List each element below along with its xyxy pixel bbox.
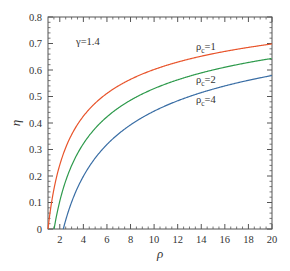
series-line-c4 — [63, 76, 272, 229]
x-tick-label: 14 — [196, 234, 207, 245]
x-tick-label: 2 — [57, 234, 62, 245]
y-tick-label: 0.8 — [29, 12, 42, 23]
series-label: ρc=4 — [196, 94, 217, 108]
x-tick-label: 18 — [243, 234, 254, 245]
series-label: ρc=1 — [196, 41, 216, 55]
y-tick-label: 0.4 — [29, 118, 43, 129]
x-tick-label: 10 — [149, 234, 160, 245]
x-tick-label: 6 — [104, 234, 109, 245]
y-tick-label: 0.6 — [29, 65, 42, 76]
gamma-annotation: γ=1.4 — [75, 36, 100, 47]
series-label: ρc=2 — [196, 74, 216, 88]
x-tick-label: 8 — [128, 234, 133, 245]
line-chart: 00.10.20.30.40.50.60.70.8 24681012141618… — [0, 0, 290, 271]
y-tick-label: 0.5 — [29, 91, 42, 102]
y-tick-label: 0.1 — [29, 197, 42, 208]
data-series — [48, 44, 272, 229]
x-tick-label: 20 — [267, 234, 278, 245]
y-tick-label: 0 — [37, 224, 42, 235]
y-tick-label: 0.7 — [29, 38, 42, 49]
series-line-c2 — [54, 58, 272, 229]
x-axis-ticks: 2468101214161820 — [54, 17, 277, 245]
x-tick-label: 4 — [81, 234, 87, 245]
x-tick-label: 16 — [220, 234, 231, 245]
y-tick-label: 0.2 — [29, 171, 42, 182]
y-axis-label: η — [8, 120, 23, 126]
y-tick-label: 0.3 — [29, 144, 42, 155]
series-line-c1 — [48, 44, 272, 229]
x-axis-label: ρ — [156, 246, 163, 261]
y-axis-ticks: 00.10.20.30.40.50.60.70.8 — [29, 12, 272, 235]
series-labels: ρc=1ρc=2ρc=4 — [196, 41, 217, 108]
x-tick-label: 12 — [172, 234, 183, 245]
